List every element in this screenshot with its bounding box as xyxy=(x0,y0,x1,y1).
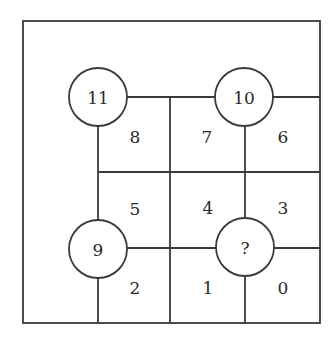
puzzle-diagram: 11 10 9 ? 8 7 6 5 4 3 2 1 0 xyxy=(0,0,335,343)
circle-bottom-left: 9 xyxy=(69,220,127,278)
cell-number: 6 xyxy=(278,127,289,147)
circle-label: 9 xyxy=(93,240,104,260)
cell-number: 8 xyxy=(130,127,141,147)
circle-top-right: 10 xyxy=(215,68,273,126)
cell-number: 2 xyxy=(130,278,141,298)
cell-number: 0 xyxy=(278,278,289,298)
circle-bottom-right: ? xyxy=(216,218,274,276)
circle-label-unknown: ? xyxy=(240,238,249,258)
circle-label: 10 xyxy=(233,88,255,108)
cell-number: 5 xyxy=(130,199,141,219)
circle-label: 11 xyxy=(87,88,109,108)
cell-number: 4 xyxy=(203,198,214,218)
cell-number: 3 xyxy=(278,198,289,218)
circle-top-left: 11 xyxy=(69,68,127,126)
cell-number: 1 xyxy=(203,278,214,298)
cell-number: 7 xyxy=(202,127,213,147)
